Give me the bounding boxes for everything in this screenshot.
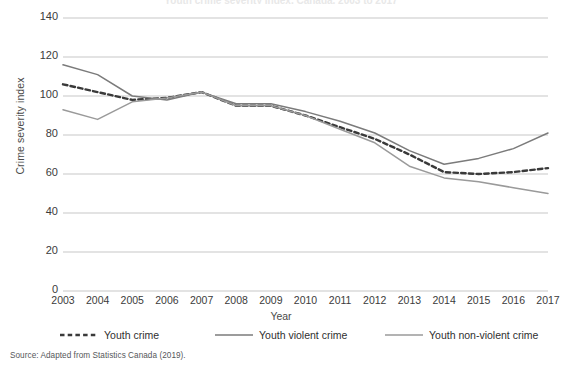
y-axis-tick-label: 100 — [18, 88, 58, 100]
y-axis-tick-label: 60 — [18, 166, 58, 178]
chart-figure: Youth crime severity index, Canada, 2003… — [0, 0, 562, 367]
legend-line-icon — [385, 330, 423, 340]
series-line — [63, 92, 548, 193]
x-axis-tick-label: 2017 — [528, 294, 562, 306]
legend-line-icon — [215, 330, 253, 340]
legend-label: Youth crime — [104, 329, 159, 341]
y-axis-tick-label: 120 — [18, 49, 58, 61]
legend-item[interactable]: Youth crime — [60, 329, 159, 341]
series-line — [63, 84, 548, 174]
plot-area: Crime severity index 020406080100120140 — [0, 0, 562, 300]
y-axis-tick-label: 20 — [18, 244, 58, 256]
y-axis-tick-label: 40 — [18, 205, 58, 217]
chart-legend: Youth crimeYouth violent crimeYouth non-… — [0, 329, 562, 347]
y-axis-tick-label: 140 — [18, 10, 58, 22]
y-axis-tick-label: 80 — [18, 127, 58, 139]
x-axis-tick-labels: 2003200420052006200720082009201020112012… — [0, 294, 562, 310]
legend-label: Youth non-violent crime — [429, 329, 538, 341]
source-note: Source: Adapted from Statistics Canada (… — [10, 351, 186, 360]
y-axis-tick-labels: 020406080100120140 — [18, 0, 58, 300]
legend-item[interactable]: Youth non-violent crime — [385, 329, 538, 341]
legend-line-icon — [60, 330, 98, 340]
x-axis-title: Year — [0, 310, 562, 322]
legend-label: Youth violent crime — [259, 329, 347, 341]
legend-item[interactable]: Youth violent crime — [215, 329, 347, 341]
chart-canvas — [0, 0, 562, 300]
